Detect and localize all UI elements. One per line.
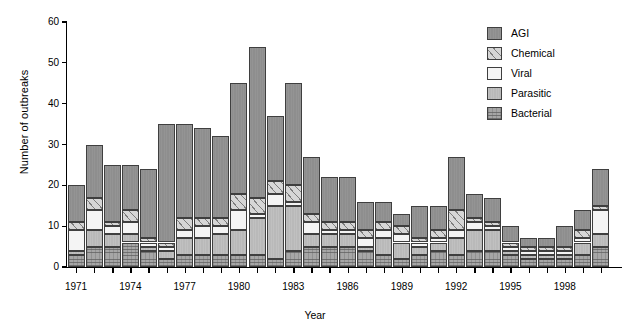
legend-label-bacterial: Bacterial	[511, 108, 552, 119]
bar-segment-agi	[484, 198, 501, 223]
bar-segment-bacterial	[230, 255, 247, 267]
bar-segment-parasitic	[86, 230, 103, 246]
bar-segment-viral	[592, 210, 609, 235]
bar-segment-chemical	[484, 222, 501, 226]
legend-label-viral: Viral	[511, 68, 532, 79]
bar-segment-chemical	[411, 238, 428, 242]
bar-segment-chemical	[104, 222, 121, 226]
bar-1975	[140, 22, 157, 267]
bar-segment-chemical	[68, 222, 85, 230]
bar-segment-viral	[430, 238, 447, 242]
bar-1989	[393, 22, 410, 267]
bar-segment-chemical	[230, 194, 247, 210]
bar-segment-viral	[339, 230, 356, 234]
bar-1990	[411, 22, 428, 267]
bar-segment-parasitic	[212, 234, 229, 254]
legend-swatch-agi	[487, 27, 502, 40]
bar-segment-agi	[520, 238, 537, 246]
bar-segment-bacterial	[122, 243, 139, 268]
bar-segment-bacterial	[321, 247, 338, 267]
bar-segment-chemical	[393, 226, 410, 234]
x-tick-mark	[130, 268, 131, 273]
bar-segment-viral	[466, 222, 483, 230]
bar-segment-bacterial	[249, 255, 266, 267]
legend-item-parasitic: Parasitic	[487, 83, 617, 103]
x-tick-mark	[167, 268, 168, 273]
x-tick-mark	[474, 268, 475, 273]
bar-segment-viral	[484, 226, 501, 230]
bar-segment-chemical	[267, 181, 284, 193]
bar-segment-viral	[249, 214, 266, 218]
x-tick-mark	[275, 268, 276, 273]
bar-segment-parasitic	[448, 238, 465, 254]
bar-1977	[176, 22, 193, 267]
bar-segment-viral	[68, 230, 85, 250]
bar-segment-chemical	[502, 243, 519, 247]
x-tick-label: 1992	[436, 281, 476, 292]
bar-segment-parasitic	[357, 247, 374, 251]
x-tick-label: 1971	[56, 281, 96, 292]
bar-1976	[158, 22, 175, 267]
x-tick-mark	[293, 268, 294, 273]
bar-segment-viral	[448, 230, 465, 238]
bar-segment-parasitic	[339, 234, 356, 246]
bar-segment-viral	[122, 222, 139, 234]
bar-segment-bacterial	[158, 259, 175, 267]
bar-segment-chemical	[430, 230, 447, 238]
legend-item-viral: Viral	[487, 63, 617, 83]
bar-segment-parasitic	[285, 206, 302, 251]
bar-segment-bacterial	[592, 247, 609, 267]
chart-figure: Number of outbreaks Year 0102030405060 1…	[0, 0, 630, 333]
bar-segment-chemical	[448, 210, 465, 230]
x-tick-mark	[112, 268, 113, 273]
y-tick-label: 0	[29, 262, 59, 272]
bar-segment-viral	[321, 230, 338, 234]
y-tick-label: 10	[29, 221, 59, 231]
bar-segment-parasitic	[411, 247, 428, 255]
bar-segment-viral	[393, 234, 410, 242]
y-tick-mark	[62, 21, 66, 22]
legend-swatch-parasitic	[487, 87, 502, 100]
bar-segment-bacterial	[484, 251, 501, 267]
bar-segment-bacterial	[411, 255, 428, 267]
x-tick-mark	[221, 268, 222, 273]
x-tick-mark	[185, 268, 186, 273]
bar-segment-agi	[230, 83, 247, 193]
bar-segment-bacterial	[176, 255, 193, 267]
bar-1991	[430, 22, 447, 267]
legend-swatch-bacterial	[487, 107, 502, 120]
bar-segment-parasitic	[393, 243, 410, 259]
x-tick-label: 1974	[110, 281, 150, 292]
bar-segment-parasitic	[122, 234, 139, 242]
bar-1992	[448, 22, 465, 267]
bar-1981	[249, 22, 266, 267]
bar-segment-viral	[194, 226, 211, 238]
bar-segment-bacterial	[104, 247, 121, 267]
bar-1978	[194, 22, 211, 267]
bar-segment-agi	[285, 83, 302, 185]
bar-segment-parasitic	[140, 247, 157, 251]
bar-1983	[285, 22, 302, 267]
x-tick-mark	[94, 268, 95, 273]
y-tick-mark	[62, 62, 66, 63]
bar-segment-chemical	[466, 218, 483, 222]
bar-1974	[122, 22, 139, 267]
x-tick-label: 1977	[165, 281, 205, 292]
bar-segment-bacterial	[194, 255, 211, 267]
bar-segment-chemical	[303, 214, 320, 222]
x-tick-mark	[384, 268, 385, 273]
bar-segment-bacterial	[574, 255, 591, 267]
bar-segment-agi	[448, 157, 465, 210]
y-tick-label: 40	[29, 99, 59, 109]
bar-segment-bacterial	[86, 247, 103, 267]
bar-segment-viral	[86, 210, 103, 230]
bar-segment-bacterial	[357, 251, 374, 267]
bar-segment-bacterial	[339, 247, 356, 267]
x-tick-mark	[257, 268, 258, 273]
bar-segment-viral	[230, 210, 247, 230]
bar-segment-chemical	[194, 218, 211, 226]
bar-segment-parasitic	[104, 234, 121, 246]
bar-segment-parasitic	[520, 255, 537, 259]
bar-segment-parasitic	[430, 243, 447, 251]
bar-segment-agi	[502, 226, 519, 242]
